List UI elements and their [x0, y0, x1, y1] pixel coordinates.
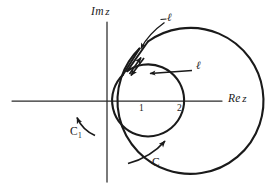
real-axis-label: Rez	[228, 93, 247, 105]
inner-contour-label-text: C	[70, 125, 78, 137]
inner-contour-label: C1	[70, 126, 81, 138]
imaginary-axis-label-text: Im	[91, 5, 104, 17]
imaginary-axis-label: Imz	[91, 6, 110, 18]
outer-contour-label: C	[152, 157, 160, 169]
tick-label-1: 1	[139, 104, 144, 114]
tick-label-2: 2	[177, 104, 182, 114]
real-axis-label-text: Re	[228, 92, 241, 104]
leader-tick-top	[161, 19, 167, 20]
imaginary-axis-variable: z	[104, 5, 110, 17]
real-axis-variable: z	[241, 92, 247, 104]
contour-diagram: Imz Rez 1 2 C1 C ℓ ℓ	[0, 0, 277, 190]
cut-label-top: ℓ	[167, 12, 172, 23]
leader-arrow-top	[141, 23, 165, 49]
inner-contour-label-subscript: 1	[78, 131, 82, 140]
cut-label-right: ℓ	[196, 60, 201, 71]
